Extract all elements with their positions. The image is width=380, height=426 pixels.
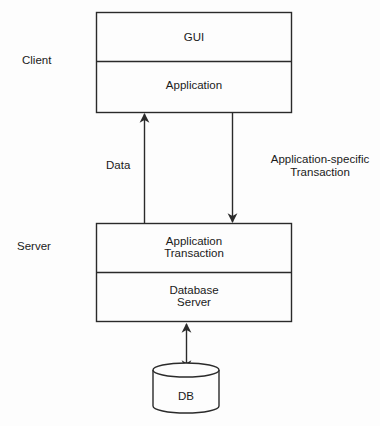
db-cylinder-icon bbox=[153, 363, 219, 413]
gui-layer-label: GUI bbox=[97, 31, 291, 43]
client-server-diagram: Client Server GUI Application Data Appli… bbox=[0, 0, 380, 426]
db-label: DB bbox=[153, 390, 219, 402]
database-server-layer-line1: Database bbox=[97, 284, 291, 296]
diagram-shapes bbox=[0, 0, 380, 426]
transaction-arrow-label-line1: Application-specific bbox=[268, 153, 372, 165]
client-box bbox=[97, 13, 292, 113]
client-tier-label: Client bbox=[22, 54, 51, 66]
app-transaction-layer-line2: Transaction bbox=[97, 247, 291, 259]
app-transaction-layer-line1: Application bbox=[97, 235, 291, 247]
application-layer-label: Application bbox=[97, 79, 291, 91]
server-tier-label: Server bbox=[17, 240, 51, 252]
database-server-layer-line2: Server bbox=[97, 296, 291, 308]
data-arrow-label: Data bbox=[106, 159, 130, 171]
transaction-arrow-label-line2: Transaction bbox=[268, 166, 372, 178]
